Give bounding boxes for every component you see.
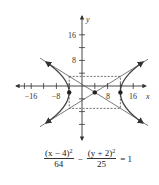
vertex-point [67,90,71,94]
hyperbola-graph: −16 −8 8 16 x 16 8 y [0,0,159,145]
x-tick-label: 16 [129,92,137,101]
equals-one: = 1 [120,154,132,164]
minus-sign: − [78,154,83,164]
fraction-y-term: (y + 2)2 25 [87,148,117,170]
x-tick-label: −8 [52,92,61,101]
y-tick-label: 16 [68,31,76,40]
y-term-numerator: (y + 2) [88,148,113,158]
y-tick-label: 8 [72,56,76,65]
x-tick-label: −16 [25,92,38,101]
exponent: 2 [112,148,115,154]
hyperbola-equation: (x − 4)2 64 − (y + 2)2 25 = 1 [44,148,136,170]
center-point [93,90,97,94]
x-axis-label: x [145,92,150,101]
vertex-point [118,90,122,94]
exponent: 2 [70,148,73,154]
x-term-numerator: (x − 4) [45,148,70,158]
fraction-x-term: (x − 4)2 64 [44,148,74,170]
x-term-denominator: 64 [54,159,63,170]
y-axis-label: y [85,15,90,24]
y-term-denominator: 25 [97,159,106,170]
